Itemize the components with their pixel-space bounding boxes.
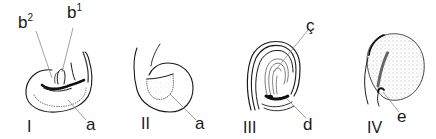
- callout-b1-superscript: 1: [76, 2, 82, 13]
- callout-b2: b2: [18, 14, 33, 31]
- panel-1-drawing: [26, 52, 92, 112]
- panel-2-drawing: [134, 44, 193, 112]
- panel-4-numeral: IV: [367, 120, 382, 136]
- leader-a-2: [170, 94, 196, 120]
- leader-b2: [36, 31, 52, 78]
- leader-c-cedilla: [274, 30, 308, 72]
- callout-b2-superscript: 2: [27, 12, 33, 23]
- panel-4-drawing: [365, 34, 425, 106]
- leader-lines: [36, 28, 399, 120]
- panel-2-numeral: II: [141, 116, 150, 132]
- panel-1-numeral: I: [27, 119, 31, 135]
- callout-a-panel-2: a: [195, 115, 204, 132]
- panel-3-numeral: III: [243, 120, 256, 136]
- leader-a-1: [68, 100, 86, 120]
- callout-a-panel-1: a: [86, 116, 95, 133]
- callout-c-cedilla: ç: [306, 17, 315, 34]
- callout-d: d: [303, 116, 312, 133]
- callout-e: e: [397, 108, 406, 125]
- panel-3-drawing: [247, 42, 300, 111]
- callout-b1: b1: [67, 4, 82, 21]
